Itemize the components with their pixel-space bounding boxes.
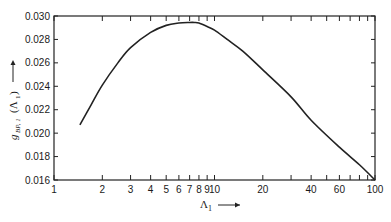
x-tick-label: 1	[51, 184, 57, 195]
x-tick-label: 20	[257, 184, 269, 195]
y-tick-label: 0.016	[25, 175, 50, 186]
y-tick-label: 0.020	[25, 128, 50, 139]
y-axis-title-sub: BP, 1	[14, 118, 22, 133]
x-tick-label: 2	[100, 184, 106, 195]
y-tick-label: 0.024	[25, 81, 50, 92]
line-chart: 0.0160.0180.0200.0220.0240.0260.0280.030…	[0, 0, 391, 222]
y-tick-label: 0.026	[25, 57, 50, 68]
x-tick-label: 4	[148, 184, 154, 195]
x-tick-label: 60	[334, 184, 346, 195]
y-tick-label: 0.018	[25, 151, 50, 162]
plot-border	[54, 16, 375, 180]
x-tick-label: 10	[209, 184, 221, 195]
y-tick-label: 0.028	[25, 34, 50, 45]
y-axis-arrow-icon	[11, 60, 16, 65]
x-tick-label: 7	[187, 184, 193, 195]
x-tick-label: 3	[128, 184, 134, 195]
y-axis-title-tail: (Λ	[7, 101, 20, 113]
x-tick-label: 6	[176, 184, 182, 195]
x-tick-label: 5	[163, 184, 169, 195]
x-axis-title-sub: 1	[208, 204, 212, 213]
y-tick-label: 0.022	[25, 104, 50, 115]
x-tick-label: 100	[367, 184, 384, 195]
plot-frame	[54, 16, 375, 180]
y-axis-title-main: g	[7, 134, 19, 140]
x-axis-arrow-icon	[235, 203, 240, 208]
y-axis-ticks: 0.0160.0180.0200.0220.0240.0260.0280.030	[25, 11, 375, 186]
x-tick-label: 40	[306, 184, 318, 195]
x-axis-title: Λ 1	[200, 198, 240, 213]
x-axis-title-main: Λ	[200, 198, 208, 210]
y-tick-label: 0.030	[25, 11, 50, 22]
y-axis-title-close: )	[7, 91, 20, 95]
data-curve	[80, 22, 375, 180]
y-axis-title: g BP, 1 (Λ 1 )	[7, 60, 22, 140]
x-axis-ticks: 12345678910204060100	[51, 16, 384, 195]
x-tick-label: 8	[196, 184, 202, 195]
